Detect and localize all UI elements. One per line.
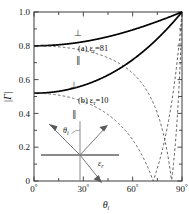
y-tick-label: 1.0 — [19, 7, 31, 17]
chart-svg: 00.20.40.60.81.0 0°30°60°90° |Γ| θi — [0, 0, 189, 214]
x-tick-label: 90° — [176, 183, 188, 194]
y-tick-label: 0.2 — [19, 142, 30, 152]
y-tick-label: 0.4 — [19, 109, 31, 119]
x-tick-labels: 0°30°60°90° — [30, 183, 188, 194]
par-symbol-a: ∥ — [76, 55, 81, 65]
x-axis-title-text: θi — [103, 199, 110, 211]
x-tick-label: 60° — [127, 183, 139, 194]
y-tick-labels: 00.20.40.60.81.0 — [19, 7, 31, 186]
fresnel-reflection-chart: 00.20.40.60.81.0 0°30°60°90° |Γ| θi — [0, 0, 189, 214]
y-axis-title-text: |Γ| — [2, 91, 13, 102]
x-tick-label: 30° — [77, 183, 89, 194]
label-curve-b: (b) εr=10 — [78, 96, 109, 106]
perp-symbol-b: ⊥ — [70, 80, 78, 90]
perp-symbol-a: ⊥ — [74, 28, 82, 38]
y-tick-label: 0.6 — [19, 75, 31, 85]
y-axis-title: |Γ| — [2, 91, 13, 102]
x-axis-title: θi — [103, 199, 110, 211]
x-tick-label: 0° — [30, 183, 38, 194]
y-tick-label: 0.8 — [19, 41, 31, 51]
par-symbol-b: ∥ — [72, 109, 77, 119]
